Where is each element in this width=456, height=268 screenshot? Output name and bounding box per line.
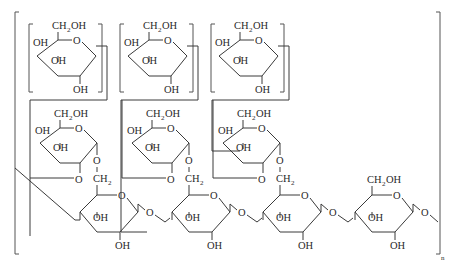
svg-text:OH: OH	[145, 142, 161, 153]
svg-text:O: O	[258, 123, 266, 134]
svg-text:OH: OH	[73, 84, 89, 95]
backbone-unit-4: CH 2 OH O OH OH O	[355, 174, 438, 251]
middle-unit-1: CH 2 OH O OH OH O O CH 2	[35, 108, 112, 195]
svg-text:O: O	[238, 207, 246, 218]
svg-text:OH: OH	[256, 108, 272, 119]
svg-text:O: O	[164, 35, 172, 46]
svg-text:OH: OH	[255, 84, 271, 95]
svg-text:OH: OH	[71, 20, 87, 31]
svg-text:CH: CH	[146, 108, 161, 119]
svg-text:OH: OH	[185, 212, 201, 223]
svg-text:O: O	[210, 190, 218, 201]
svg-text:O: O	[167, 174, 175, 185]
polysaccharide-structure-diagram: n CH 2 OH O OH OH OH CH 2 OH O OH OH OH	[0, 0, 456, 268]
repeat-subscript-n: n	[441, 254, 445, 262]
svg-text:2: 2	[108, 179, 112, 187]
svg-text:OH: OH	[276, 212, 292, 223]
svg-text:O: O	[73, 35, 81, 46]
svg-text:CH: CH	[54, 108, 69, 119]
svg-text:O: O	[301, 190, 309, 201]
svg-text:OH: OH	[233, 55, 249, 66]
svg-text:CH: CH	[237, 108, 252, 119]
svg-text:O: O	[393, 190, 401, 201]
svg-text:CH: CH	[367, 174, 382, 185]
svg-text:O: O	[329, 207, 337, 218]
svg-text:OH: OH	[124, 37, 140, 48]
svg-text:OH: OH	[51, 55, 67, 66]
svg-text:O: O	[167, 123, 175, 134]
svg-text:CH: CH	[52, 20, 67, 31]
svg-text:O: O	[118, 190, 126, 201]
svg-text:OH: OH	[386, 174, 402, 185]
svg-text:O: O	[258, 174, 266, 185]
svg-text:CH: CH	[276, 173, 291, 184]
svg-text:OH: OH	[142, 55, 158, 66]
svg-text:2: 2	[291, 179, 295, 187]
svg-text:O: O	[185, 155, 193, 166]
svg-text:O: O	[421, 207, 429, 218]
backbone-unit-3: O OH OH O	[263, 190, 353, 251]
svg-text:2: 2	[200, 179, 204, 187]
svg-text:OH: OH	[115, 240, 131, 251]
svg-text:OH: OH	[390, 240, 406, 251]
svg-text:OH: OH	[207, 240, 223, 251]
svg-text:OH: OH	[236, 142, 252, 153]
backbone-unit-1: O OH OH O	[75, 190, 170, 251]
outer-left-bracket	[15, 12, 19, 254]
svg-text:OH: OH	[127, 125, 143, 136]
middle-unit-2: CH 2 OH O OH OH O O CH 2	[127, 108, 204, 195]
svg-text:OH: OH	[93, 212, 109, 223]
chain-continuation-line	[15, 168, 75, 220]
svg-text:OH: OH	[164, 84, 180, 95]
svg-text:OH: OH	[35, 125, 51, 136]
svg-text:OH: OH	[73, 108, 89, 119]
svg-text:O: O	[93, 155, 101, 166]
svg-text:CH: CH	[143, 20, 158, 31]
svg-text:OH: OH	[165, 108, 181, 119]
svg-text:O: O	[146, 207, 154, 218]
svg-text:CH: CH	[93, 173, 108, 184]
svg-text:CH: CH	[185, 173, 200, 184]
svg-text:OH: OH	[298, 240, 314, 251]
svg-text:CH: CH	[234, 20, 249, 31]
svg-text:OH: OH	[53, 142, 69, 153]
svg-text:O: O	[75, 123, 83, 134]
svg-text:OH: OH	[218, 125, 234, 136]
svg-text:OH: OH	[162, 20, 178, 31]
outer-right-bracket: n	[436, 12, 445, 262]
svg-text:OH: OH	[368, 212, 384, 223]
svg-text:O: O	[75, 174, 83, 185]
svg-text:O: O	[276, 155, 284, 166]
backbone-unit-2: O OH OH O	[172, 190, 262, 251]
svg-text:OH: OH	[215, 37, 231, 48]
svg-text:O: O	[255, 35, 263, 46]
svg-text:OH: OH	[33, 37, 49, 48]
svg-text:OH: OH	[253, 20, 269, 31]
